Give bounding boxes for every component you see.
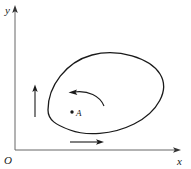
point-a: A xyxy=(70,108,82,118)
horizontal-right-arrow xyxy=(70,139,104,144)
circulation-arrow-shaft xyxy=(74,92,104,106)
closed-curve-diagram: y x O A xyxy=(0,0,191,169)
closed-oval-curve xyxy=(48,53,164,134)
point-a-dot-icon xyxy=(70,110,73,113)
vertical-up-arrow xyxy=(32,85,37,118)
y-axis-label: y xyxy=(4,4,10,16)
origin-label: O xyxy=(4,154,12,166)
x-axis-label: x xyxy=(176,155,182,167)
curved-circulation-arrow xyxy=(69,89,105,106)
x-axis xyxy=(15,147,181,153)
y-axis xyxy=(12,5,18,150)
point-a-label: A xyxy=(75,108,82,118)
figure-container: y x O A xyxy=(0,0,191,169)
